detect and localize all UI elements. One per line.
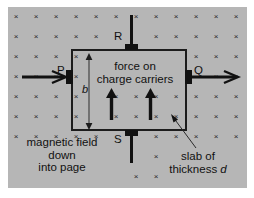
field-into-page-mark: ×: [72, 13, 80, 21]
field-into-page-mark: ×: [232, 73, 240, 81]
terminal-block-p: [66, 70, 73, 84]
field-caption-line3: into page: [12, 161, 112, 174]
field-into-page-mark: ×: [212, 13, 220, 21]
field-into-page-mark: ×: [232, 133, 240, 141]
field-into-page-mark: ×: [212, 53, 220, 61]
field-into-page-mark: ×: [232, 93, 240, 101]
field-into-page-mark: ×: [32, 33, 40, 41]
field-into-page-mark: ×: [192, 13, 200, 21]
slab-caption-thickness-text: thickness: [169, 163, 220, 175]
field-into-page-mark: ×: [12, 53, 20, 61]
field-into-page-mark: ×: [112, 13, 120, 21]
field-into-page-mark: ×: [12, 33, 20, 41]
field-into-page-mark: ×: [172, 133, 180, 141]
field-into-page-mark: ×: [92, 13, 100, 21]
lead-wire-s: [130, 135, 133, 163]
label-terminal-s: S: [114, 133, 122, 145]
slab-caption-line1: slab of: [160, 150, 236, 163]
field-into-page-mark: ×: [12, 13, 20, 21]
field-into-page-mark: ×: [32, 73, 40, 81]
slab-caption-line2: thickness d: [160, 163, 236, 176]
field-into-page-mark: ×: [232, 33, 240, 41]
label-terminal-q: Q: [194, 64, 203, 76]
field-into-page-mark: ×: [192, 93, 200, 101]
field-into-page-mark: ×: [52, 93, 60, 101]
field-into-page-mark: ×: [212, 113, 220, 121]
field-into-page-mark: ×: [152, 173, 160, 181]
field-caption-line1: magnetic field: [12, 136, 112, 149]
field-caption: magnetic field down into page: [12, 136, 112, 174]
field-into-page-mark: ×: [152, 13, 160, 21]
label-terminal-p: P: [57, 64, 65, 76]
field-into-page-mark: ×: [52, 113, 60, 121]
force-caption: force on charge carriers: [95, 60, 175, 85]
force-caption-line1: force on: [95, 60, 175, 73]
field-into-page-mark: ×: [32, 113, 40, 121]
field-into-page-mark: ×: [192, 53, 200, 61]
field-into-page-mark: ×: [72, 33, 80, 41]
field-into-page-mark: ×: [232, 53, 240, 61]
field-into-page-mark: ×: [52, 53, 60, 61]
field-into-page-mark: ×: [212, 93, 220, 101]
field-into-page-mark: ×: [192, 113, 200, 121]
field-into-page-mark: ×: [12, 93, 20, 101]
field-into-page-mark: ×: [232, 13, 240, 21]
field-into-page-mark: ×: [212, 133, 220, 141]
field-into-page-mark: ×: [152, 33, 160, 41]
label-terminal-r: R: [114, 30, 122, 42]
field-into-page-mark: ×: [52, 33, 60, 41]
field-into-page-mark: ×: [172, 13, 180, 21]
field-into-page-mark: ×: [52, 13, 60, 21]
field-into-page-mark: ×: [172, 33, 180, 41]
force-caption-line2: charge carriers: [95, 73, 175, 86]
field-into-page-mark: ×: [152, 133, 160, 141]
slab-caption-thickness-symbol: d: [220, 163, 226, 175]
field-into-page-mark: ×: [212, 73, 220, 81]
terminal-block-q: [185, 70, 192, 84]
field-into-page-mark: ×: [132, 13, 140, 21]
field-into-page-mark: ×: [92, 33, 100, 41]
field-into-page-mark: ×: [192, 133, 200, 141]
field-into-page-mark: ×: [132, 173, 140, 181]
field-caption-line2: down: [12, 149, 112, 162]
field-into-page-mark: ×: [192, 33, 200, 41]
label-height-b: b: [82, 83, 88, 95]
field-into-page-mark: ×: [32, 53, 40, 61]
field-into-page-mark: ×: [12, 113, 20, 121]
figure-canvas: ××××××××××××××××××××××××××××××××××××××××…: [0, 0, 254, 198]
field-into-page-mark: ×: [32, 93, 40, 101]
field-into-page-mark: ×: [12, 73, 20, 81]
lead-wire-r: [130, 15, 133, 45]
field-into-page-mark: ×: [212, 33, 220, 41]
slab-caption: slab of thickness d: [160, 150, 236, 175]
field-into-page-mark: ×: [32, 13, 40, 21]
field-into-page-mark: ×: [152, 153, 160, 161]
field-into-page-mark: ×: [232, 113, 240, 121]
